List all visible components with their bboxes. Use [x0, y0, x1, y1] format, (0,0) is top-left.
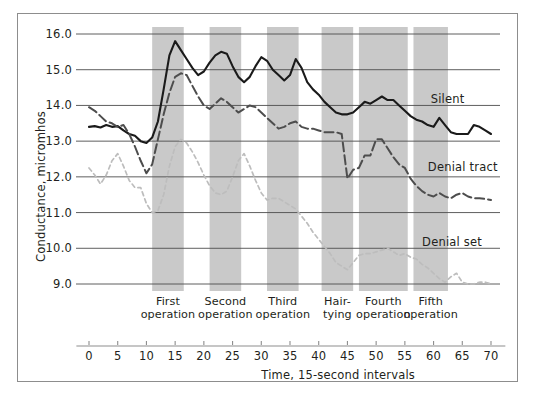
x-tick-label-20: 20 — [192, 349, 216, 363]
x-tick-label-5: 5 — [106, 349, 130, 363]
band-label-6: Fifthoperation — [386, 295, 476, 321]
x-tick-label-30: 30 — [249, 349, 273, 363]
shaded-band-2 — [210, 27, 242, 291]
x-tick-label-25: 25 — [221, 349, 245, 363]
band-label-line2: operation — [386, 308, 476, 321]
plot-area — [18, 14, 517, 381]
shaded-band-5 — [359, 27, 408, 291]
x-tick-label-65: 65 — [450, 349, 474, 363]
series-label-denial-tract: Denial tract — [428, 160, 498, 174]
x-tick-label-35: 35 — [278, 349, 302, 363]
y-tick-label-9.0: 9.0 — [38, 277, 72, 291]
series-label-silent: Silent — [431, 92, 465, 106]
x-tick-label-55: 55 — [393, 349, 417, 363]
x-tick-label-0: 0 — [77, 349, 101, 363]
y-axis-title: Conductance, micromhos — [34, 111, 48, 262]
x-tick-label-15: 15 — [163, 349, 187, 363]
x-tick-label-45: 45 — [335, 349, 359, 363]
x-tick-label-10: 10 — [134, 349, 158, 363]
chart-frame: 9.010.011.012.013.014.015.016.0051015202… — [17, 13, 518, 382]
shaded-band-4 — [322, 27, 354, 291]
y-tick-label-15.0: 15.0 — [38, 63, 72, 77]
chart-figure: 9.010.011.012.013.014.015.016.0051015202… — [0, 0, 540, 398]
x-tick-label-50: 50 — [364, 349, 388, 363]
x-tick-label-70: 70 — [479, 349, 503, 363]
x-axis-title: Time, 15-second intervals — [261, 368, 415, 382]
y-tick-label-16.0: 16.0 — [38, 27, 72, 41]
band-label-line1: Fifth — [386, 295, 476, 308]
x-tick-label-60: 60 — [422, 349, 446, 363]
x-tick-label-40: 40 — [307, 349, 331, 363]
series-label-denial-set: Denial set — [422, 235, 482, 249]
